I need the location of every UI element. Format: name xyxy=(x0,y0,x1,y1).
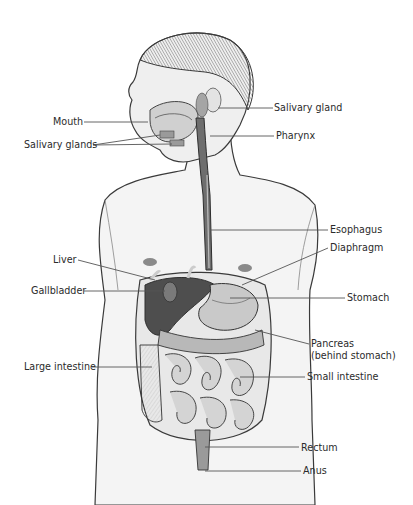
label-large-intestine: Large intestine xyxy=(24,361,96,372)
label-diaphragm: Diaphragm xyxy=(330,242,383,253)
head xyxy=(129,33,254,162)
label-salivary-glands: Salivary glands xyxy=(24,139,97,150)
label-pancreas-note: (behind stomach) xyxy=(311,350,396,361)
label-esophagus: Esophagus xyxy=(330,224,382,235)
label-salivary-gland: Salivary gland xyxy=(274,102,342,113)
label-anus: Anus xyxy=(303,465,327,476)
label-pancreas: Pancreas xyxy=(311,338,354,349)
label-pharynx: Pharynx xyxy=(276,130,315,141)
label-stomach: Stomach xyxy=(347,292,389,303)
label-mouth: Mouth xyxy=(53,116,83,127)
label-rectum: Rectum xyxy=(301,442,338,453)
label-gallbladder: Gallbladder xyxy=(31,285,86,296)
digestive-system-diagram: Mouth Salivary glands Liver Gallbladder … xyxy=(0,0,413,505)
label-liver: Liver xyxy=(53,254,77,265)
label-small-intestine: Small intestine xyxy=(307,371,379,382)
